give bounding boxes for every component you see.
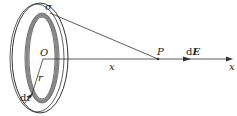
dr-label: dr: [20, 92, 31, 103]
axis-label: x: [229, 61, 235, 72]
radius-label: r: [38, 72, 44, 83]
diagram-canvas: σ O r dr P x x dE: [0, 0, 237, 116]
ring-outer-edge: [25, 13, 59, 103]
ring-element: [27, 15, 57, 101]
sigma-label: σ: [45, 1, 53, 12]
ring-inner-edge: [29, 17, 55, 99]
point-p-label: P: [156, 46, 164, 57]
field-e: E: [191, 46, 200, 57]
origin-label: O: [40, 47, 48, 58]
point-p: [157, 58, 160, 61]
disk-field-diagram: σ O r dr P x x dE: [0, 0, 237, 116]
field-label: dE: [186, 46, 200, 57]
distance-label: x: [109, 61, 115, 72]
field-arrow-icon: [183, 57, 191, 62]
